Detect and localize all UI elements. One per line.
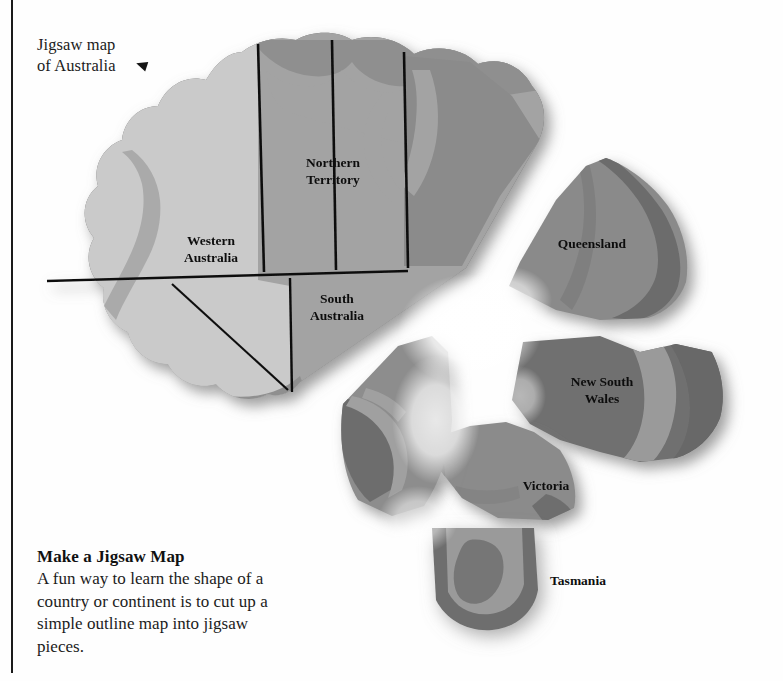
caption-line-2: of Australia bbox=[37, 55, 116, 76]
page-canvas: Western Australia Northern Territory Sou… bbox=[0, 0, 783, 681]
label-tasmania: Tasmania bbox=[550, 573, 606, 588]
blurb-line-1: A fun way to learn the shape of a bbox=[37, 568, 337, 591]
piece-tasmania[interactable] bbox=[432, 528, 538, 630]
blurb-line-3: simple outline map into jigsaw bbox=[37, 613, 337, 636]
label-western-australia-line1: Western bbox=[187, 233, 235, 248]
label-northern-territory-line1: Northern bbox=[306, 155, 360, 170]
label-victoria: Victoria bbox=[523, 478, 570, 493]
blurb-heading: Make a Jigsaw Map bbox=[37, 546, 337, 568]
blurb-line-4: pieces. bbox=[37, 636, 337, 659]
blurb-line-2: country or continent is to cut up a bbox=[37, 591, 337, 614]
label-south-australia-line2: Australia bbox=[310, 308, 364, 323]
label-northern-territory-line2: Territory bbox=[306, 172, 360, 187]
caption-line-1: Jigsaw map bbox=[37, 34, 116, 55]
activity-blurb: Make a Jigsaw Map A fun way to learn the… bbox=[37, 546, 337, 658]
label-south-australia-line1: South bbox=[320, 291, 354, 306]
label-queensland: Queensland bbox=[558, 236, 627, 251]
label-new-south-wales-line1: New South bbox=[571, 374, 634, 389]
label-new-south-wales-line2: Wales bbox=[585, 391, 620, 406]
label-western-australia-line2: Australia bbox=[184, 250, 238, 265]
map-caption: Jigsaw map of Australia bbox=[37, 34, 116, 76]
